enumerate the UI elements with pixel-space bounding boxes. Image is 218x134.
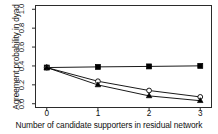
data-point-filled-square [147,64,152,69]
series-line [47,66,200,68]
plot-frame [36,6,212,108]
data-point-filled-square [95,64,100,69]
series-line [47,68,200,97]
series-layer [44,63,203,102]
data-point-filled-square [198,63,203,68]
axis-tick-marks [32,9,200,111]
series-open-circle [44,65,202,99]
series-filled-triangle [44,65,203,103]
plot-area [0,0,218,134]
series-filled-square [44,63,202,70]
chart-figure: Agreement probability in dyad 0.00.20.40… [0,0,218,134]
series-line [47,68,200,101]
